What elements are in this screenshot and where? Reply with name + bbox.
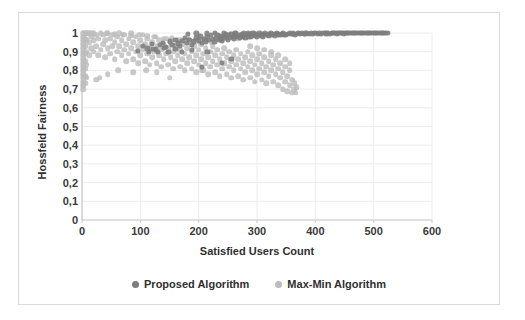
data-point: [247, 43, 253, 49]
data-point: [126, 51, 132, 57]
data-point: [136, 32, 142, 38]
data-point: [147, 62, 153, 68]
y-tick-label: 0,7: [44, 84, 78, 95]
data-point: [149, 55, 155, 61]
legend-marker-icon: [132, 281, 139, 288]
data-point: [182, 68, 188, 74]
y-tick-label: 0,8: [44, 65, 78, 76]
data-point: [254, 45, 260, 51]
data-point: [184, 60, 190, 66]
data-point: [294, 84, 300, 90]
y-tick-label: 0,2: [44, 177, 78, 188]
legend-label: Proposed Algorithm: [144, 278, 249, 290]
data-point: [173, 58, 179, 64]
data-point: [131, 69, 137, 75]
data-point: [293, 90, 299, 96]
x-tick-label: 0: [79, 226, 85, 237]
data-point: [96, 53, 102, 59]
data-point: [84, 75, 90, 81]
y-tick-label: 0,1: [44, 196, 78, 207]
y-tick-label: 0,5: [44, 121, 78, 132]
legend-item[interactable]: Proposed Algorithm: [132, 278, 249, 290]
y-axis-tick-labels: 00,10,20,30,40,50,60,70,80,91: [40, 33, 78, 220]
data-point: [167, 75, 173, 81]
data-point: [115, 68, 121, 74]
data-point: [161, 56, 167, 62]
x-axis-title: Satisfied Users Count: [82, 245, 432, 257]
data-point: [266, 73, 272, 79]
data-point: [124, 58, 130, 64]
data-point: [275, 53, 281, 59]
data-point: [105, 71, 111, 77]
data-point: [385, 30, 390, 35]
y-tick-label: 0,4: [44, 140, 78, 151]
data-points-layer: [82, 33, 432, 220]
data-point: [219, 66, 225, 72]
data-point: [287, 68, 293, 74]
data-point: [159, 64, 165, 70]
legend-marker-icon: [275, 281, 282, 288]
data-point: [170, 66, 176, 72]
legend-label: Max-Min Algorithm: [287, 278, 386, 290]
x-tick-label: 600: [423, 226, 441, 237]
data-point: [112, 56, 118, 62]
legend-item[interactable]: Max-Min Algorithm: [275, 278, 386, 290]
y-tick-label: 0,9: [44, 46, 78, 57]
data-point: [120, 32, 126, 38]
data-point: [229, 75, 235, 81]
data-point: [217, 73, 223, 79]
y-tick-label: 0,3: [44, 158, 78, 169]
data-point: [261, 47, 267, 53]
x-tick-label: 100: [131, 226, 149, 237]
data-point: [97, 75, 103, 81]
x-tick-label: 200: [189, 226, 207, 237]
plot-area: [82, 33, 432, 220]
scatter-chart: Hossfeld Fairness 00,10,20,30,40,50,60,7…: [0, 0, 525, 320]
data-point: [107, 51, 113, 57]
data-point: [231, 68, 237, 74]
chart-legend: Proposed AlgorithmMax-Min Algorithm: [18, 278, 500, 290]
data-point: [82, 81, 88, 87]
data-point: [146, 49, 151, 54]
x-tick-label: 500: [364, 226, 382, 237]
data-point: [154, 69, 160, 75]
data-point: [254, 71, 260, 77]
y-tick-label: 1: [44, 28, 78, 39]
data-point: [205, 71, 211, 77]
x-tick-label: 300: [248, 226, 266, 237]
data-point: [143, 68, 149, 74]
data-point: [240, 77, 246, 83]
data-point: [287, 60, 293, 66]
y-axis-title-container: Hossfeld Fairness: [26, 33, 40, 220]
data-point: [98, 47, 104, 53]
y-tick-label: 0: [44, 215, 78, 226]
data-point: [264, 81, 270, 87]
x-tick-label: 400: [306, 226, 324, 237]
data-point: [112, 31, 118, 37]
data-point: [84, 62, 90, 68]
data-point: [145, 33, 151, 39]
data-point: [268, 49, 274, 55]
data-point: [135, 60, 141, 66]
y-tick-label: 0,6: [44, 102, 78, 113]
data-point: [208, 64, 214, 70]
data-point: [104, 30, 110, 36]
data-point: [138, 53, 144, 59]
data-point: [119, 53, 125, 59]
x-axis-tick-labels: 0100200300400500600: [82, 226, 432, 242]
data-point: [153, 34, 159, 40]
data-point: [243, 69, 249, 75]
data-point: [252, 79, 258, 85]
data-point: [128, 33, 134, 39]
